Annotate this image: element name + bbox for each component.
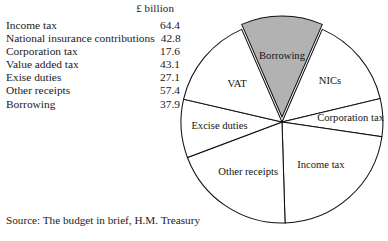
table-row-label: Borrowing xyxy=(6,98,61,111)
pie-label-nics: NICs xyxy=(319,75,341,86)
table-row: Corporation tax17.6 xyxy=(6,45,186,58)
pie-label-vat: VAT xyxy=(227,78,247,89)
table-row-label: Corporation tax xyxy=(6,45,84,58)
table-row: Other receipts57.4 xyxy=(6,84,186,97)
table-row-label: Value added tax xyxy=(6,58,85,71)
pie-label-income-tax: Income tax xyxy=(297,159,345,170)
budget-table: £ billion Income tax64.4National insuran… xyxy=(6,2,186,111)
table-row: National insurance contributions42.8 xyxy=(6,32,186,45)
pie-label-excise-duties: Excise duties xyxy=(191,120,247,131)
pie-svg: BorrowingNICsCorporation taxIncome taxOt… xyxy=(176,10,388,224)
pie-label-borrowing: Borrowing xyxy=(259,50,306,61)
table-row: Borrowing37.9 xyxy=(6,98,186,111)
table-row: Value added tax43.1 xyxy=(6,58,186,71)
table-row-label: Other receipts xyxy=(6,84,76,97)
table-row-label: Exise duties xyxy=(6,71,67,84)
source-note: Source: The budget in brief, H.M. Treasu… xyxy=(6,214,200,227)
unit-header: £ billion xyxy=(6,2,174,15)
pie-chart: BorrowingNICsCorporation taxIncome taxOt… xyxy=(176,10,388,224)
table-row: Exise duties27.1 xyxy=(6,71,186,84)
pie-label-other-receipts: Other receipts xyxy=(218,166,278,177)
pie-label-corporation-tax: Corporation tax xyxy=(317,112,384,123)
table-rows: Income tax64.4National insurance contrib… xyxy=(6,19,186,111)
pie-slice-income-tax[interactable] xyxy=(282,122,382,223)
budget-pie-figure: £ billion Income tax64.4National insuran… xyxy=(0,0,388,241)
table-row-label: Income tax xyxy=(6,19,63,32)
table-row-label: National insurance contributions xyxy=(6,32,161,45)
table-row: Income tax64.4 xyxy=(6,19,186,32)
